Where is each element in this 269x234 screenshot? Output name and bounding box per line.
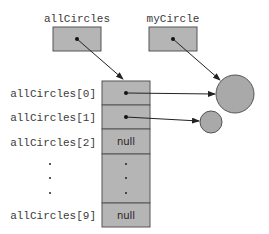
variable-label-allCircles: allCircles [44, 13, 110, 25]
index-label: allCircles[9] [10, 210, 96, 222]
reference-diagram: allCircles myCircle null null allCircles… [0, 0, 269, 234]
index-labels: allCircles[0] allCircles[1] allCircles[2… [10, 88, 96, 222]
variable-label-myCircle: myCircle [147, 13, 200, 25]
circle-object-large [216, 75, 254, 113]
null-value: null [117, 210, 135, 221]
ellipsis-dot [49, 177, 51, 179]
null-value: null [117, 136, 135, 147]
ellipsis-dot [49, 163, 51, 165]
array-allCircles: null null [102, 81, 150, 227]
ellipsis-dot [125, 163, 127, 165]
variable-allCircles: allCircles [44, 13, 110, 51]
variable-myCircle: myCircle [147, 13, 200, 51]
index-label: allCircles[2] [10, 137, 96, 149]
index-label: allCircles[0] [10, 88, 96, 100]
ellipsis-dot [125, 192, 127, 194]
ellipsis-dot [125, 177, 127, 179]
index-label: allCircles[1] [10, 112, 96, 124]
circle-object-small [200, 111, 222, 133]
ellipsis-dot [49, 192, 51, 194]
